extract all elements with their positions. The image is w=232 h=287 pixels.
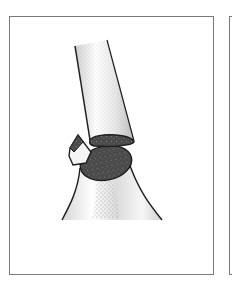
upper-fracture-surface	[90, 135, 134, 147]
upper-bone-shaft	[75, 40, 134, 141]
fracture-illustration	[0, 0, 232, 287]
bone-fragment	[69, 135, 91, 165]
